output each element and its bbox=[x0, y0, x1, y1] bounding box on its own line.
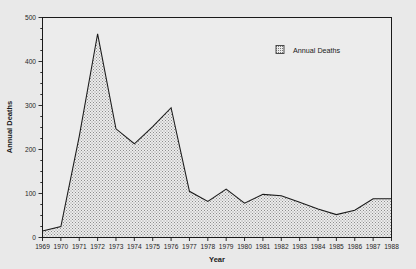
x-tick-label: 1972 bbox=[90, 243, 105, 250]
x-tick-label: 1979 bbox=[219, 243, 234, 250]
legend-label-annual-deaths: Annual Deaths bbox=[293, 46, 341, 55]
y-tick-label: 400 bbox=[25, 58, 36, 65]
x-axis-title: Year bbox=[209, 255, 225, 264]
y-axis-title: Annual Deaths bbox=[5, 101, 14, 154]
x-tick-label: 1978 bbox=[200, 243, 215, 250]
x-tick-label: 1986 bbox=[347, 243, 362, 250]
y-tick-label: 100 bbox=[25, 190, 36, 197]
x-tick-label: 1974 bbox=[127, 243, 142, 250]
chart-container: 0100200300400500 19691970197119721973197… bbox=[0, 0, 416, 269]
x-tick-label: 1973 bbox=[109, 243, 124, 250]
x-tick-label: 1981 bbox=[256, 243, 271, 250]
y-tick-label: 300 bbox=[25, 102, 36, 109]
stipple-square-swatch-icon bbox=[276, 46, 284, 54]
annual-deaths-area-chart: 0100200300400500 19691970197119721973197… bbox=[0, 0, 416, 269]
x-tick-label: 1982 bbox=[274, 243, 289, 250]
x-tick-label: 1985 bbox=[329, 243, 344, 250]
x-tick-label: 1988 bbox=[384, 243, 399, 250]
x-tick-label: 1987 bbox=[366, 243, 381, 250]
x-tick-label: 1980 bbox=[237, 243, 252, 250]
x-tick-label: 1975 bbox=[145, 243, 160, 250]
x-tick-label: 1970 bbox=[54, 243, 69, 250]
x-tick-label: 1983 bbox=[292, 243, 307, 250]
x-tick-label: 1984 bbox=[311, 243, 326, 250]
y-tick-label: 0 bbox=[32, 234, 36, 241]
y-tick-label: 500 bbox=[25, 14, 36, 21]
x-tick-label: 1971 bbox=[72, 243, 87, 250]
x-tick-label: 1976 bbox=[164, 243, 179, 250]
x-tick-label: 1977 bbox=[182, 243, 197, 250]
x-tick-label: 1969 bbox=[35, 243, 50, 250]
y-tick-label: 200 bbox=[25, 146, 36, 153]
